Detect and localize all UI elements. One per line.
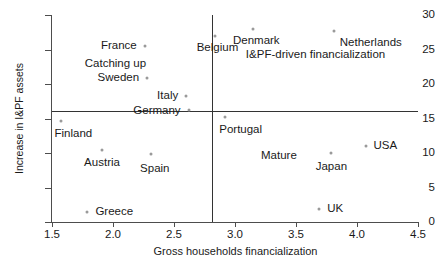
data-point-label: Portugal	[219, 124, 262, 136]
x-tick-mark	[357, 222, 358, 227]
x-tick-mark	[296, 222, 297, 227]
x-tick-label: 4.5	[410, 229, 426, 241]
data-point-label: UK	[327, 203, 343, 215]
data-point-label: Netherlands	[340, 37, 402, 49]
data-point-label: France	[101, 40, 137, 52]
data-point-label: Denmark	[233, 35, 280, 47]
data-point-label: Germany	[133, 105, 180, 117]
quadrant-annotation-label: Mature	[261, 151, 297, 163]
data-point-marker	[214, 35, 217, 38]
y-tick-mark	[45, 188, 51, 189]
plot-area: FranceSwedenItalyGermanyFinlandAustriaSp…	[52, 15, 418, 222]
data-point-label: Japan	[316, 161, 347, 173]
data-point-label: Spain	[140, 164, 169, 176]
quadrant-annotation-label: Catching up	[85, 58, 146, 70]
x-tick-label: 1.5	[44, 229, 60, 241]
data-point-marker	[143, 45, 146, 48]
x-tick-label: 3.0	[227, 229, 243, 241]
x-tick-label: 2.0	[105, 229, 121, 241]
data-point-label: Finland	[55, 128, 93, 140]
y-tick-mark	[45, 153, 51, 154]
data-point-marker	[185, 94, 188, 97]
y-tick-mark	[45, 15, 51, 16]
y-axis-title: Increase in I&PF assets	[12, 15, 26, 222]
y-tick-mark	[45, 222, 51, 223]
y-tick-mark	[45, 50, 51, 51]
data-point-label: Italy	[157, 90, 178, 102]
data-point-marker	[86, 210, 89, 213]
x-axis-title: Gross households financialization	[52, 246, 419, 257]
data-point-marker	[364, 145, 367, 148]
data-point-marker	[146, 76, 149, 79]
x-tick-label: 4.0	[349, 229, 365, 241]
data-point-marker	[149, 153, 152, 156]
y-tick-mark	[45, 84, 51, 85]
x-tick-mark	[52, 222, 53, 227]
x-tick-label: 2.5	[166, 229, 182, 241]
data-point-marker	[224, 116, 227, 119]
data-point-marker	[330, 152, 333, 155]
data-point-marker	[252, 27, 255, 30]
x-tick-mark	[174, 222, 175, 227]
scatter-plot-figure: Increase in I&PF assets 051015202530 1.5…	[0, 0, 435, 268]
x-tick-label: 3.5	[288, 229, 304, 241]
x-tick-mark	[235, 222, 236, 227]
data-point-label: Austria	[84, 157, 120, 169]
y-tick-mark	[45, 119, 51, 120]
data-point-marker	[59, 119, 62, 122]
data-point-marker	[318, 207, 321, 210]
x-tick-mark	[113, 222, 114, 227]
data-point-marker	[101, 148, 104, 151]
data-point-label: Sweden	[98, 72, 140, 84]
horizontal-reference-line	[52, 111, 418, 112]
data-point-label: USA	[374, 140, 398, 152]
quadrant-annotation-label: I&PF-driven financialization	[246, 49, 385, 61]
data-point-marker	[187, 108, 190, 111]
x-tick-mark	[418, 222, 419, 227]
data-point-marker	[332, 29, 335, 32]
data-point-label: Greece	[95, 206, 133, 218]
